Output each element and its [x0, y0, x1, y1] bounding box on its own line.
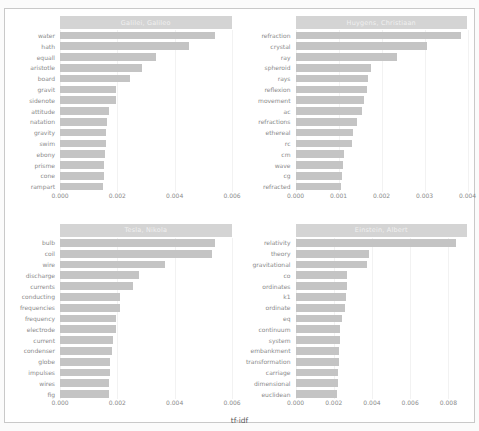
bar-fill — [60, 379, 109, 387]
y-axis-tick-label: ac — [284, 107, 291, 116]
facet-grid: Galilei, Galileowaterhathequallaristotle… — [4, 8, 475, 423]
y-axis-tick-label: condenser — [24, 346, 55, 355]
bar — [296, 358, 339, 366]
y-axis-tick-label: discharge — [26, 271, 55, 280]
y-axis-tick-label: bulb — [42, 238, 55, 247]
bar-series — [296, 238, 468, 400]
gridline — [232, 30, 233, 192]
x-axis-tick-label: 0.002 — [109, 399, 126, 406]
bar-fill — [296, 53, 397, 61]
y-axis-tick-label: cone — [41, 171, 55, 180]
bar-fill — [60, 129, 106, 137]
y-axis-tick-label: hath — [41, 42, 55, 51]
y-axis-tick-label: ray — [281, 53, 291, 62]
bar — [296, 250, 370, 258]
bar — [60, 150, 105, 158]
facet-strip: Huygens, Christiaan — [296, 16, 468, 29]
bar-fill — [60, 250, 212, 258]
facet-strip: Tesla, Nikola — [60, 224, 232, 237]
x-axis-tick-label: 0.004 — [166, 192, 183, 199]
y-axis-tick-label: prisme — [34, 161, 55, 170]
bar — [296, 347, 340, 355]
bar — [60, 140, 106, 148]
x-axis-tick-label: 0.000 — [287, 399, 304, 406]
bar — [60, 86, 116, 94]
gridline — [468, 30, 469, 192]
y-axis-tick-label: ethereal — [266, 128, 291, 137]
facet-panel: Huygens, Christiaanrefractioncrystalrays… — [240, 8, 476, 216]
bar-fill — [60, 282, 133, 290]
bar-fill — [60, 390, 109, 398]
y-axis-tick-label: sidenote — [29, 96, 55, 105]
bar — [296, 96, 365, 104]
y-axis-tick-label: attitude — [31, 107, 55, 116]
y-axis-tick-label: board — [38, 74, 55, 83]
y-axis-tick-label: fig — [47, 390, 55, 399]
x-axis-tick-label: 0.004 — [363, 399, 380, 406]
bar-fill — [296, 336, 340, 344]
bar — [296, 390, 338, 398]
bar-fill — [60, 96, 116, 104]
bar — [296, 172, 342, 180]
bar — [296, 261, 368, 269]
y-axis-tick-label: reflexion — [264, 85, 290, 94]
bar — [60, 118, 107, 126]
plot-area — [296, 30, 468, 192]
y-axis-tick-label: natation — [30, 117, 55, 126]
y-axis-tick-label: carriage — [266, 368, 291, 377]
y-axis-tick-label: system — [269, 336, 291, 345]
bar — [60, 282, 133, 290]
bar — [296, 336, 340, 344]
bar — [296, 315, 342, 323]
y-axis-tick-label: crystal — [270, 42, 290, 51]
bar-fill — [60, 161, 104, 169]
bar-fill — [296, 129, 353, 137]
bar — [296, 325, 341, 333]
bar-fill — [60, 369, 110, 377]
bar-fill — [296, 293, 346, 301]
facet-strip: Galilei, Galileo — [60, 16, 232, 29]
y-axis-tick-label: continuum — [258, 325, 290, 334]
plot-area — [60, 30, 232, 192]
y-axis-tick-label: swim — [39, 139, 55, 148]
y-axis-tick-label: movement — [258, 96, 290, 105]
bar — [296, 161, 343, 169]
bar — [60, 183, 103, 191]
bar-fill — [60, 42, 189, 50]
bar-fill — [296, 390, 338, 398]
bar-fill — [296, 107, 363, 115]
bar-fill — [60, 239, 215, 247]
bar — [296, 107, 363, 115]
y-axis-tick-label: current — [33, 336, 55, 345]
y-axis-tick-label: k1 — [283, 292, 290, 301]
bar-fill — [60, 336, 113, 344]
y-axis-tick-label: embankment — [251, 346, 291, 355]
bar — [60, 304, 120, 312]
bar — [60, 42, 189, 50]
gridline — [232, 238, 233, 400]
y-axis-tick-label: coil — [45, 249, 55, 258]
bar — [60, 239, 215, 247]
x-axis-tick-label: 0.001 — [330, 192, 347, 199]
bar-fill — [296, 379, 338, 387]
bar-fill — [60, 107, 109, 115]
y-axis-tick-label: co — [284, 271, 291, 280]
x-axis-tick-label: 0.000 — [51, 192, 68, 199]
bar-fill — [296, 32, 462, 40]
x-axis-tick-label: 0.000 — [287, 192, 304, 199]
bar — [60, 347, 112, 355]
bar-fill — [60, 64, 142, 72]
facet-title: Huygens, Christiaan — [347, 19, 416, 27]
bar — [296, 129, 353, 137]
y-axis-tick-label: aristotle — [30, 63, 55, 72]
facet-title: Einstein, Albert — [355, 226, 408, 234]
bar-fill — [296, 347, 340, 355]
bar-fill — [60, 325, 116, 333]
bar-fill — [296, 96, 365, 104]
y-axis-tick-label: theory — [271, 249, 291, 258]
bar — [60, 315, 116, 323]
bar — [60, 390, 109, 398]
facet-title: Tesla, Nikola — [124, 226, 167, 234]
y-axis-tick-label: relativity — [264, 238, 291, 247]
tfidf-facet-figure: Galilei, Galileowaterhathequallaristotle… — [0, 0, 479, 431]
